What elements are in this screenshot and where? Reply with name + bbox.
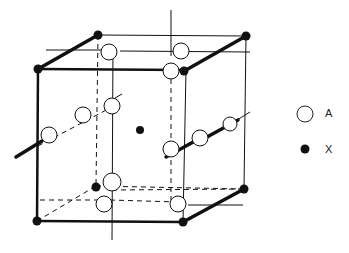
- legend-open-circle-icon: [297, 106, 313, 122]
- atoms-X: [33, 31, 251, 227]
- legend: [297, 106, 313, 154]
- crystal-structure-diagram: [0, 0, 349, 253]
- legend-label-a: A: [325, 107, 332, 119]
- legend-label-x: X: [325, 143, 332, 155]
- legend-filled-circle-icon: [301, 145, 310, 154]
- axis-lines: [46, 10, 250, 240]
- bond-thin: [115, 94, 250, 120]
